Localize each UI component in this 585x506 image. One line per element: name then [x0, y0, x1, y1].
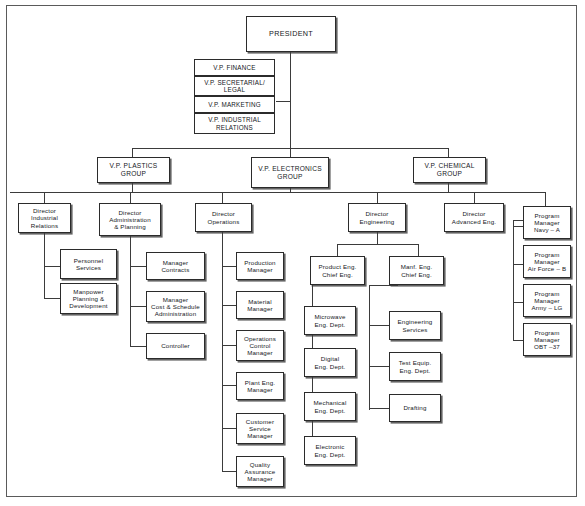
node-test-equip-eng-dept-label-1: Test Equip.	[399, 359, 432, 366]
node-director-industrial-relations[interactable]: Director Industrial Relations	[18, 203, 71, 233]
node-program-manager-air-force-b-label-1: Program	[535, 251, 560, 258]
node-vp-secretarial-legal[interactable]: V.P. SECRETARIAL/ LEGAL	[194, 76, 275, 96]
line-chemical-down	[448, 182, 449, 192]
node-controller[interactable]: Controller	[146, 333, 205, 359]
line-adm-tap-0	[130, 266, 146, 267]
node-operations-control-manager-label-2: Control	[249, 342, 270, 349]
line-ops-tap-0	[222, 266, 236, 267]
node-material-manager[interactable]: Material Manager	[236, 291, 284, 319]
node-vp-industrial-relations-label-1: V.P. INDUSTRIAL	[208, 116, 261, 123]
line-eng-bus-r	[418, 244, 419, 256]
line-mec-tap-0	[369, 325, 389, 326]
node-plant-eng-manager[interactable]: Plant Eng. Manager	[236, 372, 284, 400]
node-director-operations[interactable]: Director Operations	[195, 203, 252, 232]
node-director-operations-label-1: Director	[212, 210, 235, 217]
node-program-manager-navy-a[interactable]: Program Manager Navy – A	[523, 206, 571, 239]
node-director-advanced-eng-label-2: Advanced Eng.	[452, 218, 496, 225]
line-pm-tap-0	[513, 226, 523, 227]
node-drafting-label-1: Drafting	[403, 404, 426, 411]
node-director-engineering-label-2: Engineering	[359, 218, 394, 225]
node-product-eng-chief-eng-label-2: Chief Eng.	[322, 271, 353, 278]
node-vp-plastics-group[interactable]: V.P. PLASTICS GROUP	[97, 157, 170, 183]
node-vp-marketing-label: V.P. MARKETING	[208, 101, 261, 108]
node-personnel-services-label-1: Personnel	[74, 257, 103, 264]
node-manager-cost-schedule-administration[interactable]: Manager Cost & Schedule Administration	[146, 291, 205, 322]
node-program-manager-army-lg[interactable]: Program Manager Army – LG	[523, 284, 571, 317]
node-program-manager-obt-37[interactable]: Program Manager OBT –37	[523, 323, 571, 356]
node-quality-assurance-manager[interactable]: Quality Assurance Manager	[236, 456, 284, 487]
line-pm-tap-3	[513, 340, 523, 341]
line-ops-spine	[222, 232, 223, 472]
line-mec-stem	[369, 285, 398, 286]
node-engineering-services-label-1: Engineering	[397, 318, 432, 325]
line-pm-tap-2	[513, 302, 523, 303]
node-director-advanced-eng-label-1: Director	[462, 210, 485, 217]
node-vp-chemical-group[interactable]: V.P. CHEMICAL GROUP	[413, 157, 486, 183]
line-mec-tap-2	[369, 408, 389, 409]
node-mechanical-eng-dept[interactable]: Mechanical Eng. Dept.	[304, 392, 356, 421]
node-electronic-eng-dept-label-2: Eng. Dept.	[314, 451, 345, 458]
node-production-manager-label-2: Manager	[247, 266, 273, 273]
node-vp-electronics-group[interactable]: V.P. ELECTRONICS GROUP	[251, 157, 329, 188]
node-director-engineering[interactable]: Director Engineering	[348, 203, 406, 232]
node-electronic-eng-dept[interactable]: Electronic Eng. Dept.	[304, 436, 356, 465]
line-dir-drop-0	[44, 192, 45, 203]
node-manpower-planning-development-label-1: Manpower	[73, 288, 103, 295]
node-test-equip-eng-dept[interactable]: Test Equip. Eng. Dept.	[389, 352, 441, 381]
node-microwave-eng-dept[interactable]: Microwave Eng. Dept.	[304, 306, 356, 335]
line-dir-drop-1	[130, 192, 131, 203]
node-vp-chemical-group-label-1: V.P. CHEMICAL	[424, 162, 474, 170]
line-dir-drop-4	[474, 192, 475, 203]
line-eng-bus	[337, 244, 418, 245]
node-program-manager-air-force-b-label-3: Air Force – B	[528, 265, 566, 272]
node-director-advanced-eng[interactable]: Director Advanced Eng.	[444, 203, 504, 232]
line-group-drop-plastics	[132, 148, 133, 157]
line-mec-spine	[369, 285, 370, 410]
node-manager-contracts[interactable]: Manager Contracts	[146, 252, 205, 280]
line-ops-tap-2	[222, 345, 236, 346]
node-customer-service-manager[interactable]: Customer Service Manager	[236, 413, 284, 444]
line-pm-tap-1	[513, 264, 523, 265]
node-mechanical-eng-dept-label-2: Eng. Dept.	[314, 407, 345, 414]
node-manpower-planning-development[interactable]: Manpower Planning & Development	[60, 283, 117, 314]
node-program-manager-air-force-b-label-2: Manager	[534, 258, 560, 265]
node-vp-marketing[interactable]: V.P. MARKETING	[194, 96, 275, 113]
node-production-manager-label-1: Production	[244, 259, 275, 266]
line-ops-tap-4	[222, 428, 236, 429]
node-personnel-services[interactable]: Personnel Services	[60, 249, 117, 279]
node-vp-electronics-group-label-2: GROUP	[277, 173, 302, 181]
line-ir-tap-0	[44, 266, 60, 267]
node-digital-eng-dept-label-2: Eng. Dept.	[314, 363, 345, 370]
node-program-manager-navy-a-label-2: Manager	[534, 219, 560, 226]
line-plastics-down	[132, 182, 133, 192]
node-product-eng-chief-eng[interactable]: Product Eng. Chief Eng.	[310, 256, 365, 285]
node-customer-service-manager-label-2: Service	[249, 425, 271, 432]
node-product-eng-chief-eng-label-1: Product Eng.	[319, 263, 357, 270]
node-vp-secretarial-legal-label-2: LEGAL	[224, 86, 245, 93]
org-chart-canvas: PRESIDENT V.P. FINANCE V.P. SECRETARIAL/…	[0, 0, 585, 506]
node-digital-eng-dept[interactable]: Digital Eng. Dept.	[304, 348, 356, 377]
node-vp-industrial-relations-label-2: RELATIONS	[216, 124, 253, 131]
line-group-drop-electronics	[290, 148, 291, 157]
line-ops-tap-5	[222, 471, 236, 472]
node-microwave-eng-dept-label-2: Eng. Dept.	[314, 321, 345, 328]
node-engineering-services[interactable]: Engineering Services	[389, 311, 441, 340]
node-operations-control-manager-label-1: Operations	[244, 335, 276, 342]
line-adm-tap-2	[130, 346, 146, 347]
node-operations-control-manager[interactable]: Operations Control Manager	[236, 330, 284, 361]
node-drafting[interactable]: Drafting	[389, 394, 441, 422]
node-plant-eng-manager-label-1: Plant Eng.	[245, 379, 275, 386]
node-production-manager[interactable]: Production Manager	[236, 252, 284, 280]
line-president-trunk	[290, 52, 291, 148]
line-director-bus	[10, 192, 545, 193]
node-microwave-eng-dept-label-1: Microwave	[314, 313, 345, 320]
node-program-manager-air-force-b[interactable]: Program Manager Air Force – B	[523, 245, 571, 278]
node-manager-contracts-label-2: Contracts	[161, 266, 189, 273]
node-quality-assurance-manager-label-1: Quality	[250, 461, 271, 468]
node-president[interactable]: PRESIDENT	[246, 16, 336, 52]
node-vp-finance[interactable]: V.P. FINANCE	[194, 59, 275, 76]
node-director-administration-planning[interactable]: Director Administration & Planning	[99, 203, 161, 236]
node-vp-industrial-relations[interactable]: V.P. INDUSTRIAL RELATIONS	[194, 113, 275, 134]
node-manf-eng-chief-eng[interactable]: Manf. Eng. Chief Eng.	[389, 256, 444, 285]
line-adm-spine	[130, 236, 131, 346]
